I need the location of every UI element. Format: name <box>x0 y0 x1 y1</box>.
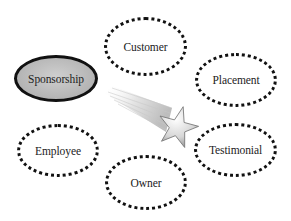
node-owner: Owner <box>105 155 187 210</box>
node-label-employee: Employee <box>35 145 81 157</box>
node-label-testimonial: Testimonial <box>209 144 262 156</box>
hub-node-sponsorship: Sponsorship <box>14 55 98 102</box>
node-customer: Customer <box>104 17 187 76</box>
diagram-canvas: Sponsorship Customer Placement Testimoni… <box>0 0 291 221</box>
node-label-customer: Customer <box>124 41 168 53</box>
node-testimonial: Testimonial <box>194 123 277 177</box>
hub-label: Sponsorship <box>28 73 84 85</box>
node-label-placement: Placement <box>213 74 260 86</box>
node-label-owner: Owner <box>131 177 162 189</box>
node-placement: Placement <box>195 53 277 107</box>
node-employee: Employee <box>17 124 99 177</box>
